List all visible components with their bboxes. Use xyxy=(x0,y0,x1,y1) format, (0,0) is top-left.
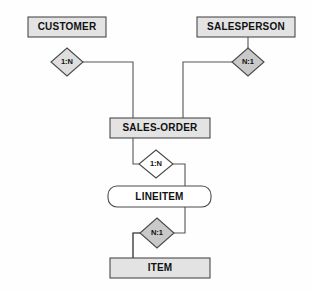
connector-salesorder-to-rel3 xyxy=(173,164,185,186)
connector-salesperson-to-rel2 xyxy=(183,62,232,118)
connector-rel4-to-item xyxy=(133,233,140,258)
relationship-customer-salesorder[interactable]: 1:N xyxy=(51,48,83,76)
entity-customer[interactable]: CUSTOMER xyxy=(28,17,106,37)
connector-rel3-to-lineitem xyxy=(174,207,185,233)
connector-rel2-to-salesorder xyxy=(133,138,139,164)
relationship-lineitem-item-label: N:1 xyxy=(151,228,163,237)
er-diagram-canvas: CUSTOMER SALESPERSON SALES-ORDER LINEITE… xyxy=(0,0,311,292)
relationship-salesorder-lineitem[interactable]: 1:N xyxy=(139,150,173,178)
er-diagram-svg: CUSTOMER SALESPERSON SALES-ORDER LINEITE… xyxy=(0,0,311,292)
relationship-salesorder-lineitem-label: 1:N xyxy=(150,159,162,168)
connector-lineitem-to-rel4 xyxy=(133,233,140,258)
entity-salesperson[interactable]: SALESPERSON xyxy=(197,17,295,37)
relationship-salesperson-salesorder-label: N:1 xyxy=(242,57,254,66)
connector-customer-to-rel1 xyxy=(83,62,133,118)
entity-salesperson-label: SALESPERSON xyxy=(207,21,285,32)
relationship-lineitem-item[interactable]: N:1 xyxy=(140,218,174,248)
entity-lineitem-label: LINEITEM xyxy=(135,191,183,202)
relationship-customer-salesorder-label: 1:N xyxy=(61,57,73,66)
entity-sales-order[interactable]: SALES-ORDER xyxy=(110,118,210,138)
relationship-salesperson-salesorder[interactable]: N:1 xyxy=(232,48,264,76)
entity-item-label: ITEM xyxy=(148,262,173,273)
entity-sales-order-label: SALES-ORDER xyxy=(123,122,199,133)
entity-item[interactable]: ITEM xyxy=(110,258,210,278)
entity-customer-label: CUSTOMER xyxy=(38,21,97,32)
entity-lineitem[interactable]: LINEITEM xyxy=(108,186,211,207)
